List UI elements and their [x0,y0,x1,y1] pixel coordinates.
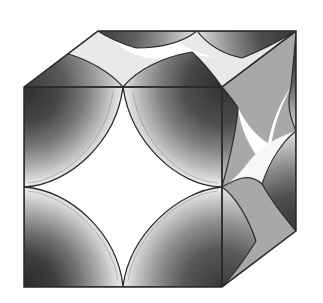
figure-container: Cube with intersecting cylindrical bores… [0,0,323,303]
cube-with-bores-illustration: Cube with intersecting cylindrical bores… [0,0,323,303]
front-face [24,87,222,287]
